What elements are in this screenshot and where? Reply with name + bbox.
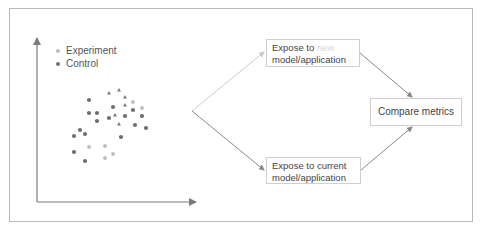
- control-point: [111, 105, 115, 109]
- control-point: [72, 134, 76, 138]
- control-point: [107, 116, 111, 120]
- box-text: Compare metrics: [378, 106, 454, 118]
- experiment-point: [140, 106, 144, 110]
- control-point: [78, 128, 82, 132]
- control-point: [87, 111, 91, 115]
- experiment-point: [103, 144, 107, 148]
- experiment-point: [87, 145, 91, 149]
- scatter-points: [72, 88, 148, 163]
- arrow-current-to-compare: [361, 127, 412, 170]
- control-point: [83, 132, 87, 136]
- unlabeled-point: [123, 95, 127, 99]
- arrow-to-new: [192, 52, 264, 111]
- expose-new-box: Expose to new model/application: [266, 39, 360, 67]
- control-point: [95, 119, 99, 123]
- expose-current-box: Expose to current model/application: [266, 157, 361, 184]
- box-text: model/application: [272, 54, 359, 66]
- control-dot-icon: [56, 62, 60, 66]
- control-point: [123, 114, 127, 118]
- legend: Experiment Control: [56, 44, 117, 70]
- unlabeled-point: [107, 91, 111, 95]
- legend-label: Experiment: [66, 44, 117, 57]
- experiment-point: [111, 152, 115, 156]
- control-point: [119, 135, 123, 139]
- unlabeled-point: [123, 103, 127, 107]
- control-point: [140, 114, 144, 118]
- highlight-word: new: [317, 42, 334, 53]
- experiment-dot-icon: [56, 49, 60, 53]
- legend-item-experiment: Experiment: [56, 44, 117, 57]
- control-point: [95, 111, 99, 115]
- experiment-point: [131, 100, 135, 104]
- arrow-new-to-compare: [360, 53, 412, 97]
- unlabeled-point: [113, 113, 117, 117]
- control-point: [133, 123, 137, 127]
- compare-metrics-box: Compare metrics: [370, 98, 462, 126]
- unlabeled-point: [117, 122, 121, 126]
- box-text: Expose to current: [272, 160, 360, 172]
- box-text: model/application: [272, 172, 360, 184]
- control-point: [83, 159, 87, 163]
- unlabeled-point: [117, 88, 121, 92]
- legend-label: Control: [66, 57, 98, 70]
- control-point: [131, 108, 135, 112]
- control-point: [144, 126, 148, 130]
- arrow-to-current: [192, 111, 264, 170]
- box-text: Expose to: [272, 42, 317, 53]
- legend-item-control: Control: [56, 57, 117, 70]
- control-point: [72, 150, 76, 154]
- control-point: [87, 98, 91, 102]
- experiment-point: [103, 156, 107, 160]
